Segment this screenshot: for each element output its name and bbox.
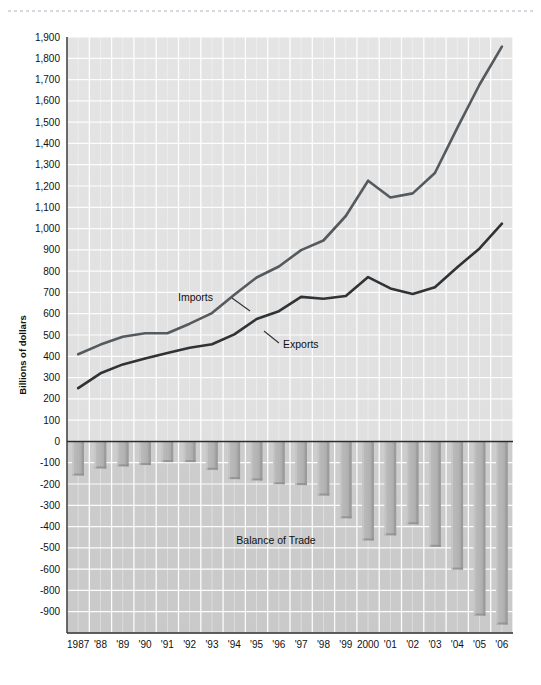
y-tick-label: 1,500 [35, 117, 60, 128]
balance-of-trade-label: Balance of Trade [236, 534, 316, 546]
y-tick-label: -800 [40, 585, 60, 596]
y-tick-label: 1,200 [35, 181, 60, 192]
x-tick-label: '88 [94, 639, 107, 650]
page-perforation-line [8, 10, 533, 12]
x-tick-label: '95 [250, 639, 263, 650]
x-tick-label: '94 [228, 639, 241, 650]
x-tick-label: '98 [317, 639, 330, 650]
y-tick-label: 1,700 [35, 74, 60, 85]
y-tick-label: 200 [43, 393, 60, 404]
x-tick-label: '03 [428, 639, 441, 650]
y-tick-label: 100 [43, 415, 60, 426]
y-tick-label: -600 [40, 564, 60, 575]
x-tick-label: '06 [495, 639, 508, 650]
imports-label: Imports [178, 291, 213, 303]
x-tick-label: '04 [451, 639, 464, 650]
y-tick-label: -300 [40, 500, 60, 511]
y-tick-label: 900 [43, 244, 60, 255]
x-tick-label: '96 [272, 639, 285, 650]
y-tick-label: 400 [43, 351, 60, 362]
y-tick-label: 600 [43, 308, 60, 319]
x-tick-label: '97 [295, 639, 308, 650]
x-tick-label: '93 [205, 639, 218, 650]
y-tick-label: -900 [40, 606, 60, 617]
y-tick-label: 1,800 [35, 53, 60, 64]
y-tick-label: -500 [40, 542, 60, 553]
y-tick-label: 300 [43, 372, 60, 383]
y-tick-label: 700 [43, 287, 60, 298]
y-tick-label: 1,900 [35, 32, 60, 43]
y-tick-label: 1,600 [35, 95, 60, 106]
x-tick-label: '92 [183, 639, 196, 650]
y-axis-title: Billions of dollars [17, 315, 28, 395]
x-tick-label: '02 [406, 639, 419, 650]
x-tick-label: '90 [139, 639, 152, 650]
y-tick-label: -100 [40, 457, 60, 468]
y-tick-label: 1,300 [35, 159, 60, 170]
y-tick-label: 1,400 [35, 138, 60, 149]
x-tick-label: '05 [473, 639, 486, 650]
x-tick-label: 2000 [357, 639, 380, 650]
imports-exports-balance-chart: 1,9001,8001,7001,6001,5001,4001,3001,200… [0, 0, 541, 685]
y-axis-title-group: Billions of dollars [17, 315, 28, 395]
y-tick-label: 0 [54, 436, 60, 447]
y-tick-label: 800 [43, 266, 60, 277]
exports-label: Exports [283, 338, 319, 350]
y-tick-label: -200 [40, 479, 60, 490]
y-tick-label: 1,100 [35, 202, 60, 213]
y-tick-label: 1,000 [35, 223, 60, 234]
x-tick-label: '89 [116, 639, 129, 650]
x-tick-label: 1987 [67, 639, 90, 650]
x-tick-label: '01 [384, 639, 397, 650]
trade-balance-figure: 1,9001,8001,7001,6001,5001,4001,3001,200… [0, 0, 541, 685]
x-tick-label: '99 [339, 639, 352, 650]
x-axis-tick-labels: 1987'88'89'90'91'92'93'94'95'96'97'98'99… [67, 639, 509, 650]
x-tick-label: '91 [161, 639, 174, 650]
y-tick-label: -400 [40, 521, 60, 532]
y-axis-tick-labels: 1,9001,8001,7001,6001,5001,4001,3001,200… [35, 32, 60, 618]
y-tick-label: 500 [43, 330, 60, 341]
